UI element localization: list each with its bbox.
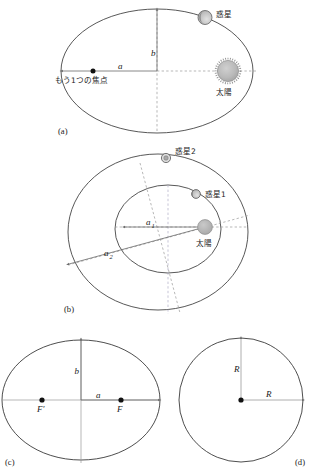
- planet-1-b: [192, 190, 201, 199]
- kepler-orbit-figure: b a もう1つの焦点 惑星 太陽 (a): [0, 0, 313, 473]
- center-dot-d: [238, 397, 243, 402]
- label-semi-major-inner-sub-b: 1: [152, 222, 155, 229]
- label-semi-minor-c: b: [75, 366, 80, 376]
- panel-label-d: (d): [295, 457, 305, 467]
- label-focus-right-c: F: [116, 404, 123, 414]
- semi-major-arrow-outer-b: [69, 227, 205, 264]
- focus-right-dot-c: [118, 397, 123, 402]
- panel-label-b: (b): [64, 304, 74, 314]
- label-radius-horizontal-d: R: [265, 389, 272, 399]
- label-sun-b: 太陽: [196, 238, 212, 248]
- planet-2-b: [161, 153, 170, 162]
- panel-label-a: (a): [58, 126, 68, 136]
- panel-a: b a もう1つの焦点 惑星 太陽 (a): [55, 9, 256, 136]
- label-semi-major-outer-sub-b: 2: [110, 253, 114, 260]
- label-planet-a: 惑星: [216, 9, 232, 19]
- panel-d: R R (d): [179, 338, 305, 467]
- label-focus-left-c: F′: [36, 404, 45, 414]
- label-semi-major-c: a: [96, 390, 101, 400]
- label-planet-1-b: 惑星1: [205, 189, 226, 199]
- label-sun-a: 太陽: [216, 87, 232, 97]
- label-semi-minor-a: b: [151, 48, 156, 58]
- focus-left-dot-c: [39, 397, 44, 402]
- major-axis-dashed-outer-b: [68, 215, 250, 265]
- label-other-focus-a: もう1つの焦点: [55, 75, 108, 85]
- other-focus-dot-a: [91, 69, 96, 74]
- planet-a: [198, 11, 212, 25]
- panel-c: b a F′ F (c): [2, 338, 160, 467]
- label-semi-major-outer-b: a: [104, 248, 109, 258]
- sun-b: [198, 220, 213, 235]
- panel-label-c: (c): [5, 457, 15, 467]
- label-radius-vertical-d: R: [233, 364, 240, 374]
- label-semi-major-a: a: [118, 61, 123, 71]
- label-planet-2-b: 惑星2: [175, 146, 196, 156]
- sun-a: [216, 59, 241, 84]
- label-semi-major-inner-b: a: [146, 217, 151, 227]
- panel-b: a 1 a 2 惑星2 惑星1 太陽 (b): [64, 146, 250, 314]
